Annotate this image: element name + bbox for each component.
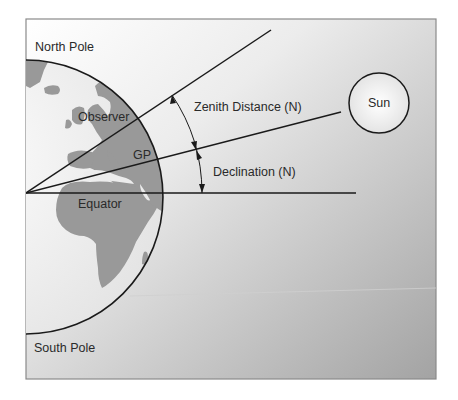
equator-label: Equator <box>78 197 122 211</box>
declination-label: Declination (N) <box>213 165 296 179</box>
south-pole-label: South Pole <box>34 341 95 355</box>
sun-label: Sun <box>368 96 390 110</box>
observer-label: Observer <box>78 110 129 124</box>
sun: Sun <box>349 73 409 133</box>
north-pole-label: North Pole <box>35 40 94 54</box>
zenith-distance-label: Zenith Distance (N) <box>194 100 302 114</box>
gp-label: GP <box>133 148 151 162</box>
celestial-diagram: Sun North Pole Observer GP Equator Zenit… <box>0 0 458 400</box>
